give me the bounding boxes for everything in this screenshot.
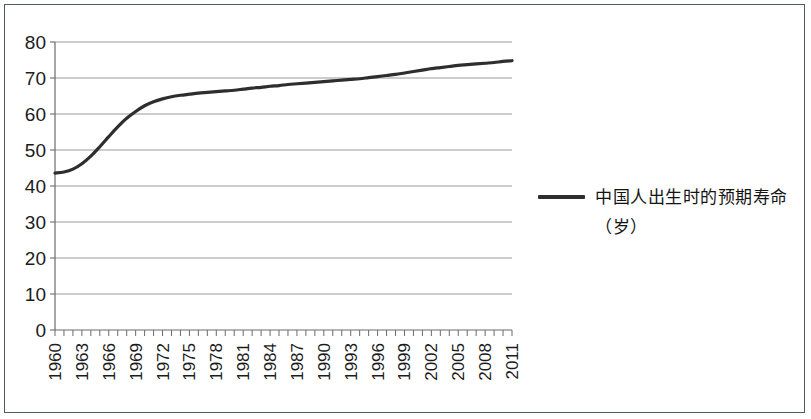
x-tick-label: 2011 [503,343,522,380]
x-tick-label: 1987 [288,343,307,381]
x-tick-label: 2002 [422,343,441,381]
x-tick-label: 1990 [315,343,334,381]
x-tick-label: 1978 [207,343,226,381]
x-tick-label: 2008 [476,343,495,381]
y-tick-label: 60 [25,104,46,125]
legend-series-label: 中国人出生时的预期寿命（岁） [595,182,800,242]
x-axis-ticks [55,330,512,336]
gridlines [55,42,512,294]
y-tick-label: 10 [25,284,46,305]
y-axis-tick-labels: 01020304050607080 [25,32,55,341]
x-tick-label: 1993 [342,343,361,381]
y-tick-label: 80 [25,32,46,53]
x-tick-label: 1984 [261,343,280,381]
x-tick-label: 1969 [127,343,146,381]
y-tick-label: 50 [25,140,46,161]
x-tick-label: 1972 [154,343,173,381]
y-tick-label: 70 [25,68,46,89]
x-tick-label: 1999 [395,343,414,381]
y-tick-label: 30 [25,212,46,233]
x-tick-label: 1960 [46,343,65,381]
x-tick-label: 1975 [180,343,199,381]
x-tick-label: 1996 [369,343,388,381]
chart-legend: 中国人出生时的预期寿命（岁） [538,182,800,242]
legend-line-swatch [538,195,585,199]
x-axis-tick-labels: 1960196319661969197219751978198119841987… [46,343,522,381]
x-tick-label: 1966 [100,343,119,381]
x-tick-label: 1981 [234,343,253,381]
x-tick-label: 2005 [449,343,468,381]
chart-page: 01020304050607080 1960196319661969197219… [0,0,811,419]
y-tick-label: 40 [25,176,46,197]
x-tick-label: 1963 [73,343,92,381]
y-tick-label: 20 [25,248,46,269]
y-tick-label: 0 [35,320,46,341]
